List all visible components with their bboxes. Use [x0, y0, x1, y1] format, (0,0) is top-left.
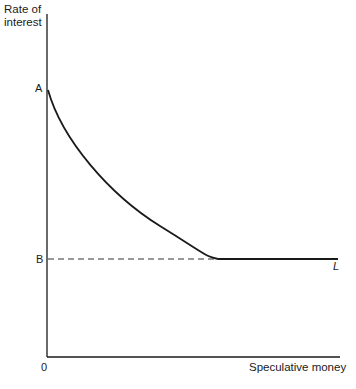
diagram-canvas: [0, 0, 356, 389]
liquidity-preference-diagram: Rate of interest A B 0 L Speculative mon…: [0, 0, 356, 389]
y-axis-label-line1: Rate of: [4, 3, 44, 16]
curve-l-label: L: [333, 260, 339, 273]
y-axis-label: Rate of interest: [4, 3, 44, 29]
origin-label: 0: [41, 361, 47, 374]
point-b-label: B: [36, 253, 43, 266]
liquidity-curve-falling: [48, 90, 218, 259]
point-a-label: A: [35, 82, 42, 95]
x-axis-label: Speculative money: [249, 361, 346, 374]
y-axis-label-line2: interest: [4, 16, 44, 29]
